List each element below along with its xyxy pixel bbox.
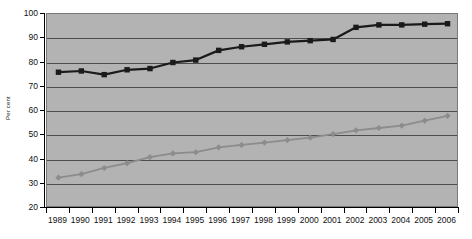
plot-area	[46, 13, 458, 207]
data-point-marker	[147, 154, 153, 160]
x-axis-tick-mark	[206, 208, 207, 213]
series-layer	[47, 14, 458, 207]
data-point-marker	[376, 125, 382, 131]
x-axis-tick-mark	[160, 208, 161, 213]
data-point-marker	[422, 21, 427, 26]
y-axis-tick-mark	[40, 183, 45, 184]
data-point-marker	[216, 144, 222, 150]
data-point-marker	[238, 142, 244, 148]
data-point-marker	[216, 48, 221, 53]
x-axis-tick-mark	[229, 208, 230, 213]
y-axis-title-label: Per cent	[5, 68, 11, 148]
data-point-marker	[330, 131, 336, 137]
x-axis-tick-label: 2006	[427, 215, 467, 225]
x-axis-tick-mark	[458, 208, 459, 213]
y-axis-tick-mark	[40, 13, 45, 14]
data-point-marker	[444, 113, 450, 119]
y-axis-tick-mark	[40, 62, 45, 63]
data-point-marker	[399, 22, 404, 27]
y-axis-tick-label: 90	[14, 32, 38, 42]
y-axis-title: Per cent	[0, 0, 14, 239]
data-point-marker	[307, 135, 313, 141]
series-lower-series	[55, 113, 450, 181]
y-axis-tick-mark	[40, 159, 45, 160]
x-axis-tick-mark	[275, 208, 276, 213]
y-axis-tick-label: 20	[14, 202, 38, 212]
data-point-marker	[353, 127, 359, 133]
y-axis-tick-mark	[40, 37, 45, 38]
data-point-marker	[285, 39, 290, 44]
x-axis-tick-mark	[366, 208, 367, 213]
x-axis-tick-mark	[344, 208, 345, 213]
data-point-marker	[308, 38, 313, 43]
y-axis-tick-label: 70	[14, 81, 38, 91]
x-axis-tick-mark	[46, 208, 47, 213]
y-axis-tick-label: 60	[14, 105, 38, 115]
data-point-marker	[422, 118, 428, 124]
data-point-marker	[101, 165, 107, 171]
y-axis-tick-label: 50	[14, 129, 38, 139]
data-point-marker	[170, 150, 176, 156]
data-point-marker	[193, 57, 198, 62]
data-point-marker	[376, 22, 381, 27]
x-axis-tick-mark	[92, 208, 93, 213]
series-line	[58, 24, 447, 75]
x-axis-tick-mark	[69, 208, 70, 213]
x-axis-tick-mark	[412, 208, 413, 213]
data-point-marker	[78, 171, 84, 177]
data-point-marker	[445, 21, 450, 26]
data-point-marker	[55, 175, 61, 181]
x-axis-tick-mark	[435, 208, 436, 213]
data-point-marker	[124, 160, 130, 166]
data-point-marker	[261, 139, 267, 145]
x-axis-tick-mark	[298, 208, 299, 213]
y-axis-tick-label: 30	[14, 178, 38, 188]
series-upper-series	[56, 21, 451, 77]
data-point-marker	[102, 72, 107, 77]
chart-container: Per cent 2030405060708090100 19891990199…	[0, 0, 472, 239]
y-axis-tick-labels: 2030405060708090100	[14, 13, 42, 207]
data-point-marker	[124, 67, 129, 72]
y-axis-tick-mark	[40, 134, 45, 135]
data-point-marker	[330, 37, 335, 42]
series-line	[58, 116, 447, 178]
data-point-marker	[262, 42, 267, 47]
x-axis-tick-mark	[183, 208, 184, 213]
x-axis-tick-mark	[138, 208, 139, 213]
x-axis-tick-mark	[389, 208, 390, 213]
data-point-marker	[193, 149, 199, 155]
data-point-marker	[170, 60, 175, 65]
data-point-marker	[56, 70, 61, 75]
x-axis-tick-mark	[252, 208, 253, 213]
data-point-marker	[353, 25, 358, 30]
y-axis-tick-label: 40	[14, 154, 38, 164]
y-axis-tick-mark	[40, 86, 45, 87]
y-axis-tick-mark	[40, 110, 45, 111]
data-point-marker	[284, 137, 290, 143]
y-axis-tick-label: 80	[14, 57, 38, 67]
x-axis-tick-mark	[321, 208, 322, 213]
y-axis-tick-label: 100	[14, 8, 38, 18]
data-point-marker	[147, 66, 152, 71]
data-point-marker	[399, 122, 405, 128]
data-point-marker	[79, 68, 84, 73]
x-axis-tick-mark	[115, 208, 116, 213]
data-point-marker	[239, 44, 244, 49]
